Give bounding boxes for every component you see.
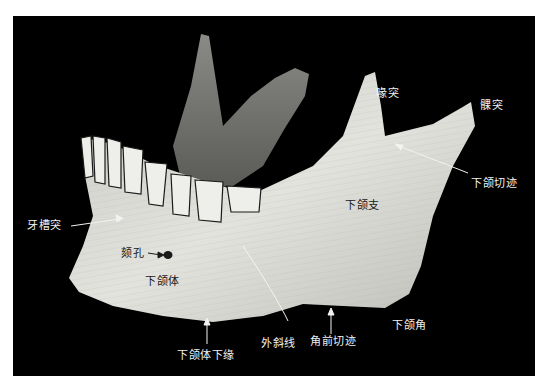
label-alveolar-process: 牙槽突 (27, 220, 62, 232)
label-antegonial-notch: 角前切迹 (310, 336, 356, 348)
label-condylar-process: 髁突 (480, 100, 503, 112)
label-mandibular-notch: 下颌切迹 (471, 178, 517, 190)
label-inferior-border: 下颌体下缘 (177, 350, 235, 362)
mandible-figure: 喙突 髁突 下颌切迹 下颌支 牙槽突 颏孔 下颌体 下颌体下缘 外斜线 角前切迹… (13, 16, 535, 376)
label-mental-foramen: 颏孔 (121, 248, 144, 260)
label-ramus: 下颌支 (345, 200, 380, 212)
label-mandible-body: 下颌体 (145, 276, 180, 288)
mandible-illustration (13, 16, 535, 376)
label-coronoid-process: 喙突 (376, 88, 399, 100)
maxilla-fragment (173, 34, 309, 188)
label-external-oblique-line: 外斜线 (261, 338, 296, 350)
label-mandibular-angle: 下颌角 (392, 320, 427, 332)
